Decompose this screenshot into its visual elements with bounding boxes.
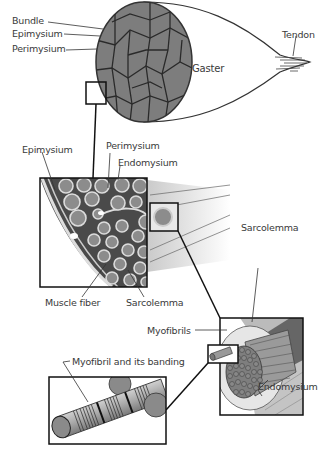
- label-myofibril-banding: Myofibril and its banding: [72, 357, 185, 367]
- label-tendon: Tendon: [282, 30, 315, 40]
- muscle-fiber-panel: [166, 268, 303, 415]
- bundle-cross-section: [96, 2, 192, 122]
- cross-section-panel: [40, 152, 230, 318]
- label-epimysium-gross: Epimysium: [12, 29, 63, 39]
- label-endomysium-section: Endomysium: [118, 158, 178, 168]
- myofibril-panel: [49, 361, 168, 444]
- label-bundle: Bundle: [12, 16, 44, 26]
- label-perimysium-gross: Perimysium: [12, 44, 66, 54]
- label-epimysium-section: Epimysium: [22, 145, 73, 155]
- label-muscle-fiber: Muscle fiber: [45, 298, 100, 308]
- label-myofibrils: Myofibrils: [147, 326, 191, 336]
- label-perimysium-section: Perimysium: [106, 141, 160, 151]
- gross-muscle-panel: [48, 0, 310, 178]
- label-sarcolemma-fiber: Sarcolemma: [241, 223, 298, 233]
- label-gaster: Gaster: [192, 64, 224, 74]
- label-endomysium-fiber: Endomysium: [258, 382, 318, 392]
- label-sarcolemma-section: Sarcolemma: [126, 298, 183, 308]
